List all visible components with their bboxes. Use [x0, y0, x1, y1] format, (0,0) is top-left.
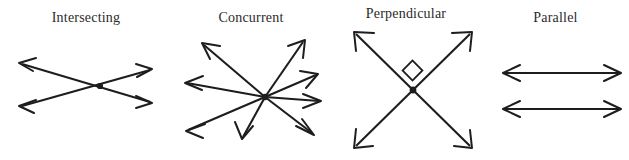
geometry-figure-board: Intersecting Concurrent [0, 0, 629, 160]
arrowhead-a-end-icon [136, 96, 152, 108]
arrowhead-b-start-icon [19, 100, 36, 113]
panel-parallel: Parallel [482, 0, 629, 160]
intersecting-line-b [22, 70, 150, 106]
concurrent-ray-left [187, 83, 265, 97]
panel-intersecting: Intersecting [0, 0, 172, 160]
diagram-parallel-lines [482, 0, 629, 160]
arrowhead-upper-right-shallow-icon [300, 71, 318, 88]
concurrent-ray-upper-left [204, 45, 265, 97]
diagram-perpendicular-lines [330, 0, 482, 160]
panel-perpendicular: Perpendicular [330, 0, 482, 160]
right-angle-marker [403, 61, 423, 81]
arrowhead-a-start-icon [19, 58, 36, 71]
concurrent-ray-down [243, 97, 265, 137]
concurrent-ray-lower-right [265, 97, 312, 133]
arrowhead-b-end-icon [136, 64, 152, 77]
intersection-point-dot [97, 83, 103, 89]
arrowhead-left-icon [185, 76, 203, 90]
diagram-concurrent-lines [172, 0, 330, 160]
perpendicular-vertex-dot [410, 87, 417, 94]
intersecting-line-a [22, 64, 150, 102]
diagram-intersecting-lines [0, 0, 172, 160]
concurrent-common-point-dot [262, 94, 268, 100]
panel-concurrent: Concurrent [172, 0, 330, 160]
